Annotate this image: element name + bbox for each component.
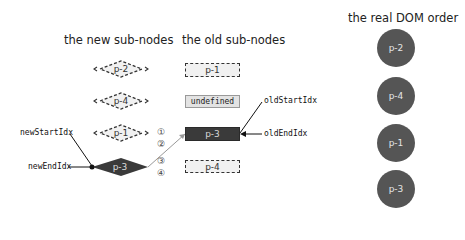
old-end-idx-label: oldEndIdx — [264, 129, 307, 138]
new-node-p-1: p-1 — [114, 128, 129, 138]
old-start-idx-label: oldStartIdx — [264, 96, 317, 105]
step-4: ④ — [157, 168, 165, 178]
new-start-idx-label: newStartIdx — [20, 128, 73, 137]
dom-node-p-4: p-4 — [377, 77, 415, 115]
dom-node-p-3: p-3 — [377, 170, 415, 208]
old-node-p-1: p-1 — [185, 63, 240, 77]
dom-node-p-1: p-1 — [377, 124, 415, 162]
old-node-undefined: undefined — [185, 95, 240, 108]
new-node-p-4: p-4 — [114, 96, 129, 106]
new-node-p-3: p-3 — [113, 162, 128, 172]
new-end-idx-label: newEndIdx — [28, 162, 71, 171]
old-node-p-3: p-3 — [185, 127, 240, 141]
new-node-p-2: p-2 — [114, 64, 129, 74]
step-3: ③ — [157, 156, 165, 166]
dom-node-p-2: p-2 — [377, 29, 415, 67]
step-2: ② — [157, 139, 165, 149]
step-1: ① — [157, 127, 165, 137]
old-node-p-4: p-4 — [185, 160, 240, 173]
